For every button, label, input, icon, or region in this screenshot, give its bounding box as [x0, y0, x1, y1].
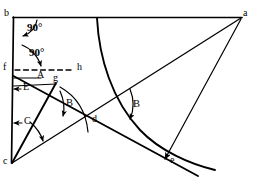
segment-left-edge-b-c: [12, 17, 14, 163]
angle-label-B-right: B: [133, 99, 140, 110]
point-label-d: d: [92, 114, 97, 124]
segment-line-c-to-a: [12, 18, 241, 163]
point-label-A: A: [37, 70, 44, 80]
point-label-h: h: [77, 62, 82, 72]
geometry-diagram: b a f h A E g C d c e 90° 90° B B: [0, 0, 259, 183]
angle-label-90-bottom: 90°: [29, 47, 44, 58]
angle-arc-at-g: [60, 91, 64, 116]
curve-main-arc-top-to-e: [97, 18, 215, 170]
segment-line-a-to-e: [165, 19, 241, 159]
point-label-c: c: [3, 156, 7, 166]
point-label-g: g: [53, 73, 58, 83]
angle-label-90-top: 90°: [27, 22, 42, 33]
point-label-f: f: [3, 62, 6, 72]
angle-label-theta-g: B: [66, 98, 73, 109]
point-label-e: e: [170, 155, 174, 165]
segment-E-to-g: [14, 84, 56, 86]
point-label-a: a: [243, 8, 247, 18]
point-label-b: b: [4, 8, 9, 18]
point-label-E: E: [23, 82, 29, 92]
point-label-C: C: [24, 116, 31, 126]
